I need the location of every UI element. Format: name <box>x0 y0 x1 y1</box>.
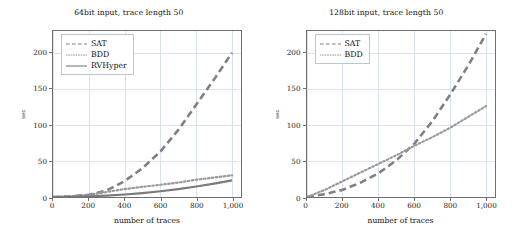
legend-64bit: SAT BDD RVHyper <box>61 34 134 75</box>
x-axis-label-64bit: number of traces <box>52 216 242 225</box>
y-tick-mark <box>303 125 306 126</box>
legend-swatch-dotted-icon <box>66 51 87 59</box>
y-tick-mark <box>49 161 52 162</box>
chart-panel-64bit: 64bit input, trace length 50 <box>0 0 258 241</box>
legend-entry-rvhyper: RVHyper <box>66 60 127 71</box>
y-tick-label: 50 <box>38 157 47 166</box>
legend-label-sat: SAT <box>91 40 107 48</box>
chart-title-128bit: 128bit input, trace length 50 <box>258 8 515 17</box>
y-tick-mark <box>49 52 52 53</box>
y-tick-mark <box>49 125 52 126</box>
legend-label-bdd: BDD <box>91 51 109 59</box>
y-axis-label-64bit: sec <box>20 109 26 118</box>
x-tick-label: 200 <box>335 201 349 210</box>
legend-swatch-solid-icon <box>66 62 87 70</box>
x-axis-label-128bit: number of traces <box>306 216 496 225</box>
gridline-horizontal <box>307 197 495 198</box>
x-tick-label: 800 <box>190 201 204 210</box>
y-tick-label: 0 <box>296 194 301 203</box>
plot-area-64bit: 0 200 400 600 800 1,000 0 50 100 150 200… <box>52 30 242 198</box>
y-tick-mark <box>303 52 306 53</box>
y-tick-mark <box>303 161 306 162</box>
plot-area-128bit: 0 200 400 600 800 1,000 0 50 100 150 200… <box>306 30 496 198</box>
figure-two-panel-runtime-charts: 64bit input, trace length 50 <box>0 0 515 241</box>
y-tick-label: 200 <box>287 47 301 56</box>
x-tick-label: 1,000 <box>223 201 244 210</box>
x-tick-label: 0 <box>303 201 308 210</box>
series-line-bdd <box>307 106 486 197</box>
x-tick-label: 600 <box>154 201 168 210</box>
legend-swatch-dashed-icon <box>320 40 341 48</box>
x-tick-label: 600 <box>407 201 421 210</box>
y-tick-label: 150 <box>33 84 47 93</box>
x-tick-label: 800 <box>443 201 457 210</box>
y-tick-mark <box>303 88 306 89</box>
legend-entry-sat: SAT <box>320 38 363 49</box>
legend-swatch-dotted-icon <box>320 51 341 59</box>
x-tick-label: 400 <box>118 201 132 210</box>
legend-entry-bdd: BDD <box>320 49 363 60</box>
legend-swatch-dashed-icon <box>66 40 87 48</box>
y-tick-label: 100 <box>33 120 47 129</box>
legend-128bit: SAT BDD <box>315 34 370 64</box>
y-tick-label: 100 <box>287 120 301 129</box>
x-tick-label: 400 <box>371 201 385 210</box>
chart-panel-128bit: 128bit input, trace length 50 <box>258 0 515 241</box>
gridline-horizontal <box>53 197 241 198</box>
y-tick-mark <box>303 198 306 199</box>
y-tick-mark <box>49 198 52 199</box>
x-tick-label: 1,000 <box>476 201 497 210</box>
legend-label-bdd: BDD <box>345 51 363 59</box>
y-tick-label: 150 <box>287 84 301 93</box>
x-tick-label: 0 <box>50 201 55 210</box>
legend-entry-sat: SAT <box>66 38 127 49</box>
legend-label-sat: SAT <box>345 40 361 48</box>
legend-label-rvhyper: RVHyper <box>91 62 127 70</box>
chart-title-64bit: 64bit input, trace length 50 <box>0 8 258 17</box>
legend-entry-bdd: BDD <box>66 49 127 60</box>
y-axis-label-128bit: sec <box>273 109 279 118</box>
x-tick-label: 200 <box>81 201 95 210</box>
y-tick-mark <box>49 88 52 89</box>
y-tick-label: 200 <box>33 47 47 56</box>
y-tick-label: 0 <box>42 194 47 203</box>
y-tick-label: 50 <box>291 157 300 166</box>
